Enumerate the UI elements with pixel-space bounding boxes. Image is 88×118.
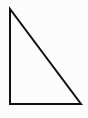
figure-canvas (0, 0, 88, 118)
right-triangle-shape (0, 0, 88, 118)
figure-background (0, 0, 88, 118)
